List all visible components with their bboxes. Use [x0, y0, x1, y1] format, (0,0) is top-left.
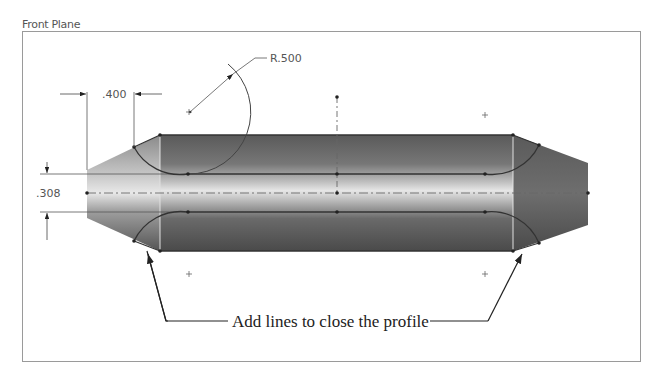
height-dimension[interactable]: .308 [36, 187, 61, 200]
radius-leader-line [190, 74, 233, 112]
radius-leader-extension [233, 58, 255, 74]
radius-dimension[interactable]: R.500 [270, 52, 302, 65]
length-dimension[interactable]: .400 [102, 88, 127, 101]
sketch-drawing[interactable]: R.500 .400 [0, 0, 662, 385]
callout-text: Add lines to close the profile [232, 312, 429, 331]
callout-leaders [147, 251, 522, 321]
